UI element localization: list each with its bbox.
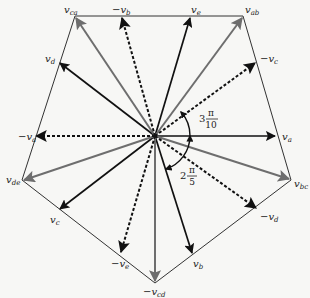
angle-2pi-5-label: 2π5 [180,165,197,187]
pentagon-boundary [22,16,291,283]
vector-ve [155,18,190,136]
label-neg-vc: −vc [260,53,278,66]
vector-neg-vb [122,18,155,136]
label-vab: vab [245,4,260,17]
vector-neg-vd [155,136,256,208]
label-vd: vd [45,53,56,66]
space-vector-diagram: vavbc−vdvb−vcd−vevcvde−vavdvca−vbvevab−v… [0,0,310,298]
vector-labels: vavbc−vdvb−vcd−vevcvde−vavdvca−vbvevab−v… [6,4,308,298]
label-va: va [282,131,292,144]
vector-vd [60,63,155,136]
svg-text:5: 5 [189,177,195,187]
label-neg-vd: −vd [260,211,279,224]
angle-3pi-10-label: 3π10 [199,108,218,130]
svg-text:π: π [189,165,195,175]
svg-text:2: 2 [180,170,186,181]
angle-arc-3pi-10 [181,112,190,136]
vector-vb [155,136,192,253]
label-neg-ve: −ve [111,258,129,271]
label-neg-va: −va [18,131,36,144]
pentagon-outline [22,16,291,283]
vector-diagram-svg: vavbc−vdvb−vcd−vevcvde−vavdvca−vbvevab−v… [0,0,310,298]
label-vca: vca [64,4,78,17]
vector-vde [24,136,155,180]
vector-vc [60,136,155,209]
label-neg-vb: −vb [112,4,131,17]
label-vde: vde [6,174,20,187]
label-neg-vcd: −vcd [143,286,166,298]
vectors-group [24,18,289,281]
svg-text:10: 10 [205,120,217,130]
label-vb: vb [193,258,204,271]
label-vbc: vbc [294,178,308,191]
label-vc: vc [50,214,60,227]
label-ve: ve [191,4,201,17]
vector-vbc [155,136,289,179]
vector-vca [76,18,155,136]
vector-neg-ve [121,136,155,252]
svg-text:π: π [208,108,214,118]
origin-point [153,134,157,138]
